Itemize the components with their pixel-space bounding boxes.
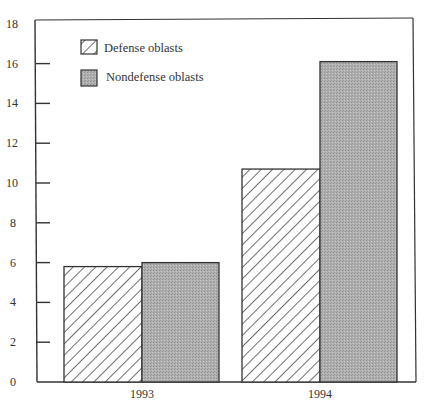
y-tick-label: 10 bbox=[6, 176, 18, 190]
bar-chart: 024681012141618 19931994 Defense oblasts… bbox=[0, 0, 434, 413]
legend-label-defense: Defense oblasts bbox=[104, 41, 183, 55]
y-axis-ticks: 024681012141618 bbox=[6, 17, 50, 389]
x-tick-label: 1994 bbox=[308, 387, 332, 401]
bar-nondefense-1993 bbox=[142, 263, 219, 382]
y-tick-label: 0 bbox=[10, 375, 16, 389]
bar-nondefense-1994 bbox=[320, 62, 397, 382]
legend-label-nondefense: Nondefense oblasts bbox=[106, 70, 204, 84]
legend-item-defense: Defense oblasts bbox=[81, 40, 183, 55]
x-axis-labels: 19931994 bbox=[130, 387, 332, 401]
y-tick-label: 8 bbox=[10, 216, 16, 230]
y-tick-label: 16 bbox=[6, 57, 18, 71]
y-axis bbox=[35, 20, 37, 382]
bar-defense-1994 bbox=[242, 169, 320, 382]
y-tick-label: 14 bbox=[6, 96, 18, 110]
y-tick-label: 18 bbox=[6, 17, 18, 31]
x-tick-label: 1993 bbox=[130, 387, 154, 401]
legend-item-nondefense: Nondefense oblasts bbox=[81, 70, 204, 86]
y-tick-label: 12 bbox=[6, 136, 18, 150]
bars bbox=[64, 62, 397, 382]
legend: Defense oblasts Nondefense oblasts bbox=[81, 40, 204, 86]
y-tick-label: 2 bbox=[10, 335, 16, 349]
bar-defense-1993 bbox=[64, 267, 142, 382]
hatched-swatch-icon bbox=[81, 40, 97, 54]
gray-swatch-icon bbox=[81, 70, 97, 86]
y-tick-label: 6 bbox=[10, 256, 16, 270]
y-tick-label: 4 bbox=[10, 295, 16, 309]
